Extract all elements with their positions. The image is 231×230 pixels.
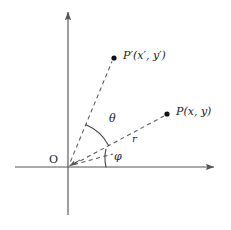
label-angle-phi: φ: [114, 151, 122, 162]
baseline-dashed-segment: [74, 154, 113, 165]
label-point-p: P(x, y): [176, 106, 211, 117]
label-angle-theta: θ: [109, 113, 116, 124]
label-origin: O: [49, 154, 58, 165]
arc-theta: [86, 125, 109, 146]
ray-origin-to-p-prime: [71, 62, 113, 162]
dot-p: [164, 111, 169, 116]
label-radius-r: r: [132, 134, 137, 144]
point-dot-group: [111, 55, 169, 116]
arc-phi: [105, 149, 106, 167]
geometry-figure: P′(x′, y′) P(x, y) O θ φ r: [0, 0, 231, 230]
dot-p-prime: [111, 55, 116, 60]
label-point-p-prime: P′(x′, y′): [123, 50, 166, 61]
